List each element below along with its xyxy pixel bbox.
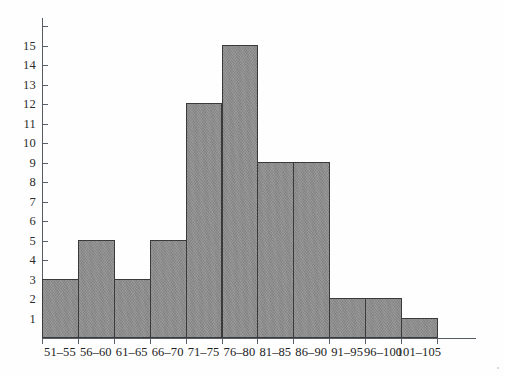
y-axis-tick-label-text: 7 [0,196,36,209]
x-axis-tick [114,339,115,344]
x-axis-tick [437,339,438,344]
x-axis-category-label: 101–105 [395,345,443,359]
histogram-bar [257,162,294,338]
y-axis-tick-label-text: 9 [0,157,36,170]
y-axis-tick-label-text: 3 [0,274,36,287]
x-axis-tick [186,339,187,344]
y-axis-tick-label-text: 12 [0,98,36,111]
histogram-bar [42,279,79,338]
histogram-bar [222,45,259,338]
y-axis-tick-label-text: 4 [0,254,36,267]
y-axis-tick-label-text: 5 [0,235,36,248]
y-axis-tick-label-text: 10 [0,137,36,150]
x-axis-line [42,338,476,339]
y-axis-tick-label-text: 2 [0,293,36,306]
y-axis-tick-label: 8 [0,176,36,189]
y-axis-tick-label: 7 [0,196,36,209]
histogram-bar [186,103,223,338]
plot-area [42,18,476,338]
y-axis-tick-label: 2 [0,293,36,306]
y-axis-tick-label-text: 1 [0,313,36,326]
y-axis-tick-label-text: 13 [0,79,36,92]
x-axis-tick [401,339,402,344]
y-axis-tick-label: 9 [0,157,36,170]
x-axis-tick [42,339,43,344]
histogram-bar [150,240,187,338]
y-axis-tick-label: 6 [0,215,36,228]
histogram-bar [329,298,366,338]
x-axis-tick [257,339,258,344]
histogram-bar [365,298,402,338]
x-axis-tick [293,339,294,344]
y-axis-tick-label: 5 [0,235,36,248]
y-axis-tick-label: 1 [0,313,36,326]
y-axis-tick-label-text: 8 [0,176,36,189]
scan-artifact-speck [497,367,499,369]
histogram-bar [293,162,330,338]
y-axis-tick-label: 11 [0,118,36,131]
y-axis-tick-label-text: 14 [0,59,36,72]
y-axis-tick-label: 14 [0,59,36,72]
histogram-bar [114,279,151,338]
histogram-bar [401,318,438,338]
y-axis-tick-label: 12 [0,98,36,111]
y-axis-tick-label: 3 [0,274,36,287]
y-axis-tick-label-text: 6 [0,215,36,228]
x-axis-tick [222,339,223,344]
x-axis-tick [329,339,330,344]
histogram-bar [78,240,115,338]
x-axis-tick [78,339,79,344]
y-axis-tick-label: 13 [0,79,36,92]
y-axis-tick-label: 15 [0,40,36,53]
y-axis-tick-label: 4 [0,254,36,267]
y-axis-tick-label-text: 11 [0,118,36,131]
y-axis-tick-label: 10 [0,137,36,150]
histogram-chart: 123456789101112131415 51–5556–6061–6566–… [0,0,505,377]
y-axis-tick-label-text: 15 [0,40,36,53]
x-axis-tick [150,339,151,344]
x-axis-tick [365,339,366,344]
